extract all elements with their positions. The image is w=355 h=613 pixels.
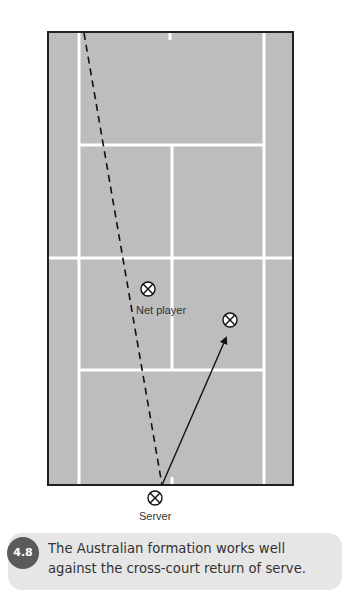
- server-label: Server: [139, 510, 172, 520]
- server-icon: [148, 491, 162, 505]
- partner-player-icon: [223, 313, 237, 327]
- net-player-label: Net player: [136, 304, 186, 316]
- caption-text: The Australian formation works well agai…: [48, 539, 332, 579]
- figure-caption: 4.8 The Australian formation works well …: [8, 533, 342, 590]
- figure-number-badge: 4.8: [7, 537, 39, 569]
- net-player-icon: [141, 282, 155, 296]
- tennis-court-diagram: Net player Server: [0, 0, 355, 520]
